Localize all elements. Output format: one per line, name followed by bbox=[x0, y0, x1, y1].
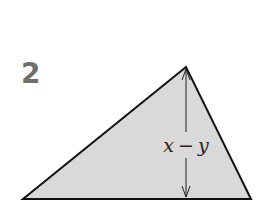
triangle bbox=[23, 67, 251, 199]
triangle-figure: x−y bbox=[0, 0, 264, 214]
height-label: x−y bbox=[163, 134, 209, 156]
